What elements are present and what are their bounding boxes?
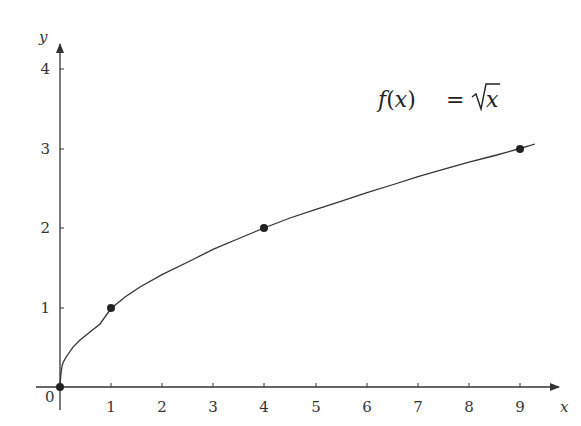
svg-text:f(x): f(x)	[376, 87, 416, 112]
x-tick-label: 5	[311, 398, 321, 416]
x-tick-label: 2	[157, 398, 167, 416]
marked-points	[56, 145, 524, 391]
x-tick-label: 6	[362, 398, 372, 416]
x-tick-label: 9	[515, 398, 525, 416]
point-0-0	[56, 383, 64, 391]
point-9-3	[516, 145, 524, 153]
point-1-1	[107, 304, 115, 312]
x-axis-label: x	[560, 398, 569, 416]
y-tick-label: 2	[40, 219, 50, 237]
y-tick-label: 4	[40, 60, 50, 78]
x-tick-label: 3	[208, 398, 218, 416]
svg-text:=: =	[446, 87, 464, 112]
svg-text:x: x	[486, 87, 499, 112]
x-tick-label: 7	[413, 398, 423, 416]
x-tick-label: 4	[259, 398, 269, 416]
x-tick-label: 1	[106, 398, 116, 416]
origin-label: 0	[45, 388, 55, 406]
y-tick-label: 3	[40, 140, 50, 158]
sqrt-curve	[60, 144, 535, 387]
y-tick-label: 1	[40, 299, 50, 317]
y-axis-label: y	[38, 28, 48, 46]
sqrt-function-chart: 1 2 3 4 5 6 7 8 9 1 2 3 4 0 x y f(x) = x	[0, 0, 581, 426]
x-tick-label: 8	[464, 398, 474, 416]
point-4-2	[260, 224, 268, 232]
function-label: f(x) = x	[376, 84, 500, 112]
